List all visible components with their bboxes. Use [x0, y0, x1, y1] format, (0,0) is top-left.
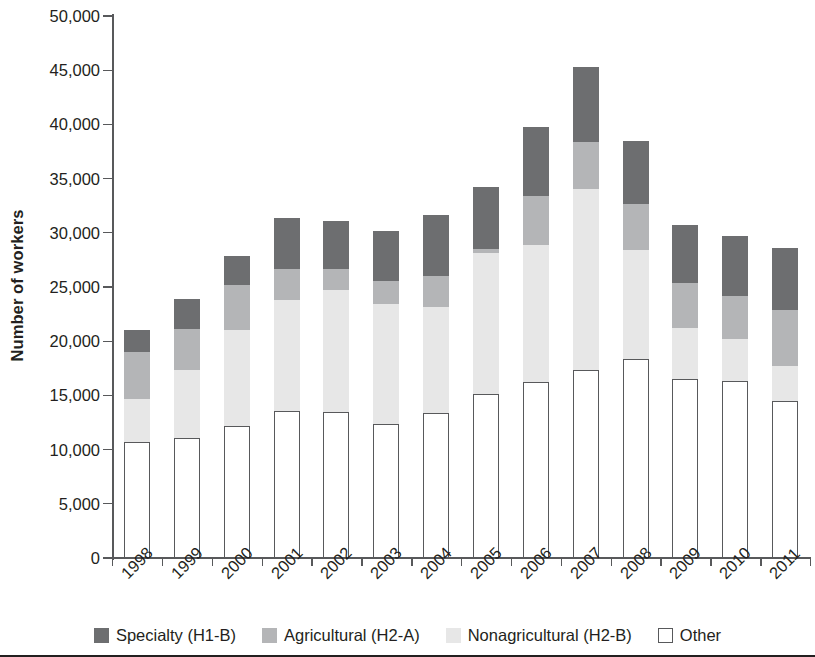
bar-segment-specialty[interactable] — [473, 187, 499, 249]
bar-segment-agricultural[interactable] — [672, 283, 698, 329]
bar-segment-specialty[interactable] — [174, 299, 200, 329]
y-axis-tick-label: 50,000 — [50, 8, 100, 25]
y-axis-tick-label: 45,000 — [50, 62, 100, 79]
chart-legend: Specialty (H1-B)Agricultural (H2-A)Nonag… — [0, 627, 815, 644]
x-axis-tick — [212, 557, 213, 566]
bar-segment-other[interactable] — [523, 382, 549, 558]
bar-segment-specialty[interactable] — [224, 256, 250, 285]
bar-segment-agricultural[interactable] — [323, 269, 349, 291]
bar-stack[interactable] — [672, 225, 698, 558]
bar-segment-other[interactable] — [224, 426, 250, 558]
x-axis-tick — [810, 557, 811, 566]
bar-segment-specialty[interactable] — [573, 67, 599, 142]
bar-stack[interactable] — [423, 215, 449, 558]
x-axis-tick — [112, 557, 113, 566]
bar-segment-nonagricultural[interactable] — [772, 366, 798, 401]
bar-segment-agricultural[interactable] — [573, 142, 599, 190]
bar-segment-specialty[interactable] — [274, 218, 300, 269]
bar-segment-specialty[interactable] — [373, 231, 399, 281]
bar-segment-specialty[interactable] — [124, 330, 150, 352]
legend-item[interactable]: Specialty (H1-B) — [94, 627, 236, 644]
bar-segment-agricultural[interactable] — [224, 285, 250, 331]
bar-segment-other[interactable] — [323, 412, 349, 558]
bar-segment-nonagricultural[interactable] — [274, 300, 300, 411]
bar-segment-nonagricultural[interactable] — [174, 370, 200, 437]
bar-stack[interactable] — [224, 256, 250, 558]
bar-segment-nonagricultural[interactable] — [323, 290, 349, 411]
bar-segment-nonagricultural[interactable] — [573, 189, 599, 370]
bar-stack[interactable] — [772, 248, 798, 558]
bar-segment-agricultural[interactable] — [623, 204, 649, 251]
bar-stack[interactable] — [473, 187, 499, 558]
bar-stack[interactable] — [323, 221, 349, 558]
bar-segment-agricultural[interactable] — [423, 276, 449, 306]
legend-label: Nonagricultural (H2-B) — [468, 627, 632, 644]
bar-segment-agricultural[interactable] — [274, 269, 300, 300]
bar-segment-specialty[interactable] — [323, 221, 349, 269]
bar-stack[interactable] — [274, 218, 300, 558]
y-axis-title: Number of workers — [0, 0, 34, 570]
plot-area: 05,00010,00015,00020,00025,00030,00035,0… — [112, 16, 810, 558]
y-axis-tick-label: 15,000 — [50, 387, 100, 404]
bar-segment-specialty[interactable] — [772, 248, 798, 310]
x-axis-tick — [561, 557, 562, 566]
legend-swatch-other — [658, 628, 673, 643]
legend-swatch-agricultural — [262, 628, 277, 643]
bar-stack[interactable] — [523, 127, 549, 558]
bar-segment-nonagricultural[interactable] — [423, 307, 449, 413]
bar-segment-other[interactable] — [722, 381, 748, 558]
y-axis-tick — [103, 70, 112, 71]
bar-segment-other[interactable] — [623, 359, 649, 558]
bar-segment-specialty[interactable] — [722, 236, 748, 296]
y-axis-tick-label: 35,000 — [50, 170, 100, 187]
bar-segment-other[interactable] — [672, 379, 698, 558]
bar-segment-other[interactable] — [573, 370, 599, 558]
bar-segment-other[interactable] — [423, 413, 449, 558]
y-axis-tick — [103, 557, 112, 558]
y-axis-tick-label: 20,000 — [50, 333, 100, 350]
bar-segment-nonagricultural[interactable] — [373, 304, 399, 423]
bar-segment-agricultural[interactable] — [473, 249, 499, 253]
x-axis-tick — [311, 557, 312, 566]
bar-segment-other[interactable] — [174, 438, 200, 558]
bar-segment-agricultural[interactable] — [772, 310, 798, 366]
bar-segment-specialty[interactable] — [423, 215, 449, 276]
bar-segment-agricultural[interactable] — [523, 196, 549, 245]
bar-segment-nonagricultural[interactable] — [224, 330, 250, 425]
legend-item[interactable]: Agricultural (H2-A) — [262, 627, 420, 644]
y-axis-tick-label: 25,000 — [50, 279, 100, 296]
x-axis-tick — [710, 557, 711, 566]
bar-segment-agricultural[interactable] — [124, 352, 150, 399]
bar-stack[interactable] — [573, 67, 599, 558]
bar-segment-other[interactable] — [373, 424, 399, 558]
bar-segment-nonagricultural[interactable] — [473, 253, 499, 394]
bar-segment-other[interactable] — [274, 411, 300, 558]
bar-group — [112, 16, 810, 558]
bar-segment-specialty[interactable] — [623, 141, 649, 204]
y-axis-tick-label: 0 — [91, 550, 100, 567]
bar-segment-nonagricultural[interactable] — [623, 250, 649, 358]
legend-item[interactable]: Nonagricultural (H2-B) — [446, 627, 632, 644]
bar-segment-other[interactable] — [772, 401, 798, 558]
x-axis-tick — [262, 557, 263, 566]
bar-segment-specialty[interactable] — [672, 225, 698, 282]
bar-segment-agricultural[interactable] — [373, 281, 399, 305]
bar-segment-agricultural[interactable] — [722, 296, 748, 339]
legend-swatch-specialty — [94, 628, 109, 643]
legend-item[interactable]: Other — [658, 627, 721, 644]
bar-segment-agricultural[interactable] — [174, 329, 200, 370]
bar-segment-other[interactable] — [124, 442, 150, 558]
y-axis-title-text: Number of workers — [8, 209, 27, 361]
legend-label: Agricultural (H2-A) — [284, 627, 420, 644]
bar-stack[interactable] — [373, 231, 399, 558]
bar-stack[interactable] — [722, 236, 748, 558]
bar-stack[interactable] — [124, 330, 150, 558]
bar-segment-other[interactable] — [473, 394, 499, 558]
bar-segment-specialty[interactable] — [523, 127, 549, 196]
bar-segment-nonagricultural[interactable] — [722, 339, 748, 381]
bar-segment-nonagricultural[interactable] — [124, 399, 150, 442]
bar-stack[interactable] — [174, 299, 200, 558]
bar-segment-nonagricultural[interactable] — [672, 328, 698, 379]
bar-segment-nonagricultural[interactable] — [523, 245, 549, 383]
bar-stack[interactable] — [623, 141, 649, 558]
